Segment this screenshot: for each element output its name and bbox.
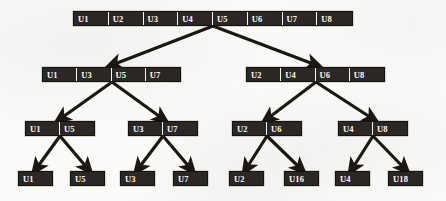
tree-node-L2-a: U1U5 — [25, 121, 95, 136]
node-cell: U3 — [121, 172, 154, 185]
tree-edge-L2-d-to-L3-g — [352, 136, 373, 169]
tree-node-L2-d: U4U8 — [338, 121, 408, 136]
tree-node-L1-left: U1U3U5U7 — [42, 67, 181, 82]
tree-edge-L2-c-to-L3-f — [267, 136, 301, 169]
tree-edge-L1-right-to-L2-d — [316, 82, 373, 119]
tree-edge-L1-left-to-L2-a — [60, 82, 112, 119]
node-cell: U5 — [71, 172, 104, 185]
node-cell: U6 — [316, 68, 350, 81]
node-cell: U4 — [178, 12, 213, 25]
tree-node-L3-f: U16 — [284, 171, 319, 186]
scan-grain-overlay — [0, 0, 446, 201]
node-cell: U8 — [373, 122, 407, 135]
tree-node-L3-g: U4 — [335, 171, 370, 186]
tree-node-L3-e: U2 — [229, 171, 264, 186]
node-cell: U8 — [317, 12, 352, 25]
tree-edge-L2-c-to-L3-e — [246, 136, 267, 169]
tree-node-root: U1U2U3U4U5U6U7U8 — [73, 11, 353, 26]
node-cell: U18 — [389, 172, 422, 185]
node-cell: U1 — [26, 122, 60, 135]
node-cell: U6 — [248, 12, 283, 25]
tree-edges — [36, 26, 405, 169]
node-cell: U2 — [109, 12, 144, 25]
tree-node-L3-a: U1 — [18, 171, 53, 186]
node-cell: U3 — [129, 122, 163, 135]
node-cell: U1 — [43, 68, 77, 81]
tree-diagram: U1U2U3U4U5U6U7U8U1U3U5U7U2U4U6U8U1U5U3U7… — [0, 0, 446, 201]
node-cell: U1 — [74, 12, 109, 25]
tree-node-L3-h: U18 — [388, 171, 423, 186]
node-cell: U7 — [146, 68, 180, 81]
edge-layer — [0, 0, 446, 201]
node-cell: U4 — [339, 122, 373, 135]
node-cell: U6 — [267, 122, 301, 135]
node-cell: U5 — [213, 12, 248, 25]
node-cell: U5 — [112, 68, 146, 81]
node-cell: U2 — [247, 68, 281, 81]
tree-edge-L1-left-to-L2-b — [112, 82, 163, 119]
node-cell: U5 — [60, 122, 94, 135]
tree-node-L1-right: U2U4U6U8 — [246, 67, 385, 82]
tree-edge-L2-d-to-L3-h — [373, 136, 405, 169]
tree-node-L3-d: U7 — [173, 171, 208, 186]
tree-node-L2-c: U2U6 — [232, 121, 302, 136]
tree-edge-L2-a-to-L3-a — [36, 136, 60, 169]
node-cell: U2 — [233, 122, 267, 135]
node-cell: U1 — [19, 172, 52, 185]
tree-node-L3-c: U3 — [120, 171, 155, 186]
node-cell: U7 — [283, 12, 318, 25]
tree-edge-L2-a-to-L3-b — [60, 136, 88, 169]
tree-edge-root-to-L1-left — [112, 26, 213, 65]
node-cell: U4 — [336, 172, 369, 185]
node-cell: U7 — [163, 122, 197, 135]
node-cell: U3 — [77, 68, 111, 81]
tree-edge-root-to-L1-right — [213, 26, 316, 65]
tree-edge-L2-b-to-L3-c — [138, 136, 163, 169]
node-cell: U8 — [350, 68, 384, 81]
node-cell: U4 — [281, 68, 315, 81]
node-cell: U2 — [230, 172, 263, 185]
node-cell: U7 — [174, 172, 207, 185]
node-cell: U3 — [144, 12, 179, 25]
tree-edge-L2-b-to-L3-d — [163, 136, 191, 169]
tree-node-L2-b: U3U7 — [128, 121, 198, 136]
tree-node-L3-b: U5 — [70, 171, 105, 186]
node-cell: U16 — [285, 172, 318, 185]
tree-edge-L1-right-to-L2-c — [267, 82, 316, 119]
